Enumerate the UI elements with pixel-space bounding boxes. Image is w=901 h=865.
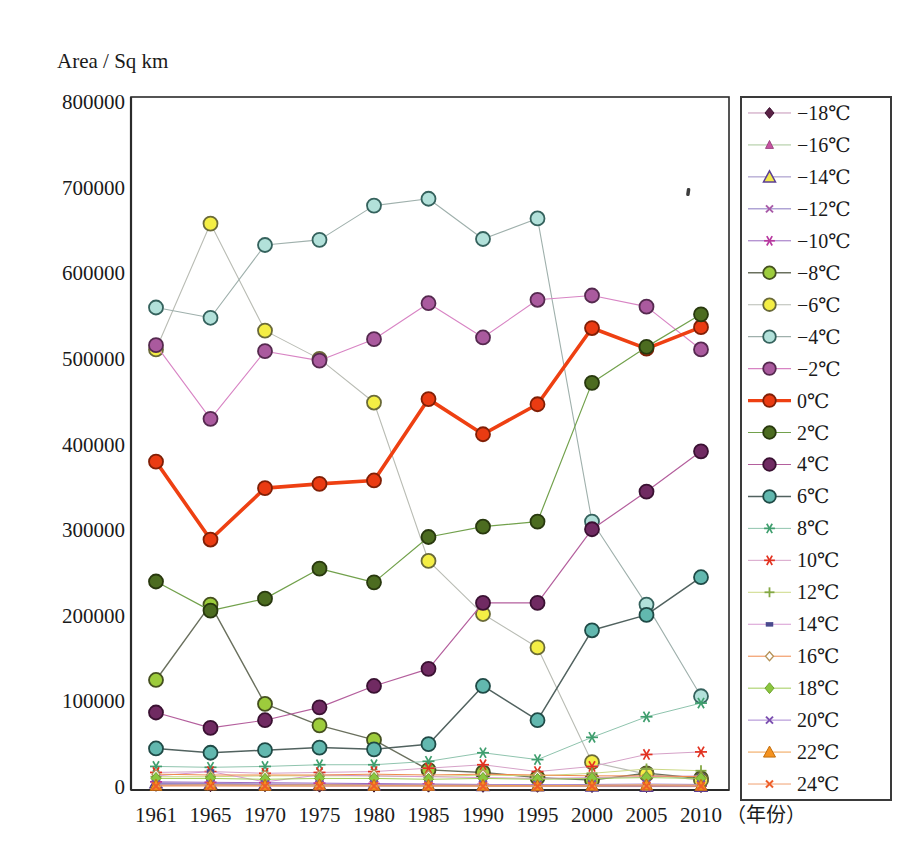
marker-circle (422, 530, 436, 544)
x-axis-unit-label: （年份） (726, 804, 806, 826)
legend-label: 4℃ (797, 453, 829, 475)
legend-label: 22℃ (797, 741, 839, 763)
marker-circle (149, 301, 163, 315)
marker-circle (476, 596, 490, 610)
x-tick-label: 1961 (135, 803, 177, 827)
legend-label: 8℃ (797, 517, 829, 539)
marker-circle (476, 232, 490, 246)
series-line (156, 605, 701, 781)
marker-circle (422, 662, 436, 676)
marker-circle (258, 238, 272, 252)
marker-circle (531, 211, 545, 225)
series-4C (149, 444, 708, 735)
marker-circle (149, 673, 163, 687)
series-line (156, 703, 701, 767)
marker-circle (640, 485, 654, 499)
marker-circle (531, 397, 545, 411)
marker-circle (422, 554, 436, 568)
x-tick-label: 1985 (408, 803, 450, 827)
marker-dash (766, 622, 773, 626)
x-tick-label: 2005 (626, 803, 668, 827)
legend-label: −6℃ (797, 294, 841, 316)
marker-circle (694, 320, 708, 334)
marker-circle (367, 742, 381, 756)
marker-circle (149, 741, 163, 755)
marker-circle (531, 640, 545, 654)
marker-circle (258, 592, 272, 606)
series-line (156, 199, 701, 696)
marker-circle (585, 522, 599, 536)
marker-circle (476, 520, 490, 534)
marker-circle (367, 396, 381, 410)
x-tick-label: 1995 (517, 803, 559, 827)
x-tick-label: 1975 (299, 803, 341, 827)
legend-label: −8℃ (797, 262, 841, 284)
marker-circle (313, 741, 327, 755)
marker-circle (694, 689, 708, 703)
marker-circle (694, 307, 708, 321)
marker-circle (367, 332, 381, 346)
legend: −18℃−16℃−14℃−12℃−10℃−8℃−6℃−4℃−2℃0℃2℃4℃6℃… (741, 97, 891, 800)
marker-circle (585, 321, 599, 335)
marker-circle (476, 679, 490, 693)
marker-circle (694, 444, 708, 458)
legend-label: −4℃ (797, 326, 841, 348)
legend-label: 14℃ (797, 613, 839, 635)
series-0C (149, 320, 708, 546)
legend-label: 10℃ (797, 549, 839, 571)
marker-circle (313, 700, 327, 714)
marker-circle (531, 515, 545, 529)
legend-label: −2℃ (797, 358, 841, 380)
marker-circle (585, 376, 599, 390)
x-tick-label: 1965 (190, 803, 232, 827)
y-tick-label: 700000 (62, 176, 125, 200)
legend-label: −18℃ (797, 102, 851, 124)
marker-circle (763, 490, 776, 503)
marker-circle (204, 533, 218, 547)
y-tick-label: 400000 (62, 433, 125, 457)
marker-circle (149, 706, 163, 720)
marker-circle (367, 679, 381, 693)
series-line (156, 327, 701, 539)
y-tick-label: 500000 (62, 347, 125, 371)
marker-circle (204, 604, 218, 618)
marker-circle (258, 324, 272, 338)
marker-circle (763, 330, 776, 343)
marker-circle (204, 412, 218, 426)
series-8C (150, 698, 707, 773)
marker-circle (149, 455, 163, 469)
marker-circle (422, 737, 436, 751)
y-tick-label: 200000 (62, 604, 125, 628)
legend-label: 18℃ (797, 677, 839, 699)
legend-label: 24℃ (797, 773, 839, 795)
y-tick-label: 100000 (62, 689, 125, 713)
marker-circle (763, 266, 776, 279)
marker-circle (763, 394, 776, 407)
marker-circle (313, 477, 327, 491)
legend-label: 2℃ (797, 422, 829, 444)
temperature-area-line-chart: Area / Sq km （年份） 0100000200000300000400… (0, 0, 901, 865)
marker-circle (313, 562, 327, 576)
marker-circle (531, 713, 545, 727)
legend-label: 20℃ (797, 709, 839, 731)
marker-circle (258, 697, 272, 711)
marker-circle (694, 570, 708, 584)
marker-circle (258, 481, 272, 495)
marker-circle (367, 199, 381, 213)
marker-circle (367, 575, 381, 589)
y-tick-label: 300000 (62, 518, 125, 542)
marker-circle (422, 296, 436, 310)
marker-circle (585, 623, 599, 637)
x-tick-label: 1990 (462, 803, 504, 827)
legend-label: 16℃ (797, 645, 839, 667)
series-line (156, 451, 701, 728)
x-tick-label: 1970 (244, 803, 286, 827)
x-tick-label: 2000 (571, 803, 613, 827)
marker-circle (313, 233, 327, 247)
marker-circle (204, 217, 218, 231)
marker-circle (313, 718, 327, 732)
stray-speck (686, 188, 691, 196)
marker-circle (204, 746, 218, 760)
marker-circle (422, 392, 436, 406)
marker-circle (763, 426, 776, 439)
